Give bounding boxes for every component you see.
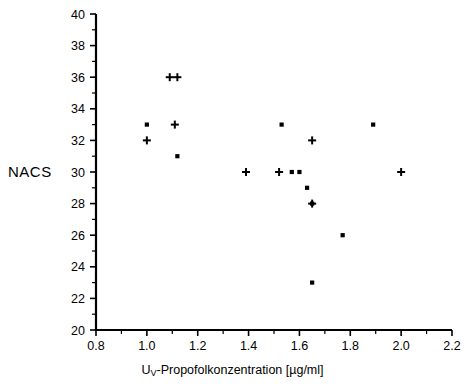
x-axis-label-prefix: U — [141, 363, 150, 377]
y-tick-label: 24 — [71, 260, 85, 274]
data-point-cross — [171, 121, 179, 129]
x-tick-label: 2.0 — [392, 339, 409, 353]
x-tick-label: 1.8 — [342, 339, 359, 353]
y-axis-label: NACS — [8, 163, 52, 180]
data-point-cross — [166, 73, 174, 81]
y-tick-label: 34 — [71, 102, 85, 116]
data-point-cross — [173, 73, 181, 81]
x-tick-label: 0.8 — [87, 339, 104, 353]
x-tick-label: 2.2 — [443, 339, 460, 353]
data-point-cross — [275, 168, 283, 176]
y-tick-label: 30 — [71, 166, 85, 180]
data-point-dot — [175, 154, 179, 158]
x-axis-label-rest: -Propofolkonzentration [µg/ml] — [157, 363, 324, 377]
y-tick-label: 38 — [71, 39, 85, 53]
x-tick-label: 1.2 — [189, 339, 206, 353]
data-point-cross — [143, 136, 151, 144]
data-point-cross — [397, 168, 405, 176]
data-point-cross — [308, 136, 316, 144]
series-dot — [145, 123, 376, 285]
x-tick-label: 1.4 — [240, 339, 257, 353]
data-point-dot — [371, 123, 375, 127]
y-tick-label: 22 — [71, 292, 85, 306]
data-point-dot — [305, 186, 309, 190]
y-tick-label: 28 — [71, 197, 85, 211]
data-point-dot — [341, 233, 345, 237]
data-point-dot — [280, 123, 284, 127]
data-point-cross — [308, 200, 316, 208]
plot-canvas: 20222426283032343638400.81.01.21.41.61.8… — [0, 0, 465, 391]
scatter-plot-figure: NACS UV-Propofolkonzentration [µg/ml] 20… — [0, 0, 465, 391]
data-point-dot — [290, 170, 294, 174]
y-tick-label: 26 — [71, 229, 85, 243]
data-point-cross — [242, 168, 250, 176]
x-tick-label: 1.6 — [291, 339, 308, 353]
y-tick-label: 40 — [71, 8, 85, 22]
data-point-dot — [145, 123, 149, 127]
data-point-dot — [310, 281, 314, 285]
data-point-dot — [297, 170, 301, 174]
y-tick-label: 20 — [71, 324, 85, 338]
x-axis-label: UV-Propofolkonzentration [µg/ml] — [0, 363, 465, 378]
x-tick-label: 1.0 — [138, 339, 155, 353]
y-tick-label: 36 — [71, 71, 85, 85]
series-cross — [143, 73, 405, 207]
y-tick-label: 32 — [71, 134, 85, 148]
